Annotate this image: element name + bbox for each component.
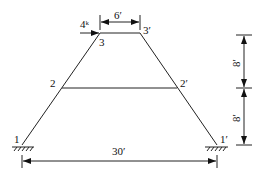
node-label-3: 3 xyxy=(99,36,105,48)
member-right-leg xyxy=(140,33,217,145)
node-label-1p: 1′ xyxy=(220,133,228,145)
node-label-3p: 3′ xyxy=(143,24,151,36)
dim-lower-height-label: 8′ xyxy=(230,114,242,122)
member-left-leg xyxy=(22,33,100,145)
dim-base-width-label: 30′ xyxy=(112,145,125,157)
dim-upper-height-label: 8′ xyxy=(230,59,242,67)
dim-heights xyxy=(236,35,252,145)
load-label: 4ᵏ xyxy=(80,18,90,30)
node-label-1: 1 xyxy=(14,133,20,145)
truss-diagram: 1 1′ 2 2′ 3 3′ 4ᵏ 6′ 30′ 8′ 8′ xyxy=(0,0,258,183)
node-label-2: 2 xyxy=(50,77,56,89)
node-label-2p: 2′ xyxy=(180,77,188,89)
dim-top-width-label: 6′ xyxy=(114,9,122,21)
support-right xyxy=(205,147,228,151)
support-left xyxy=(12,147,34,151)
truss-members xyxy=(22,33,217,145)
